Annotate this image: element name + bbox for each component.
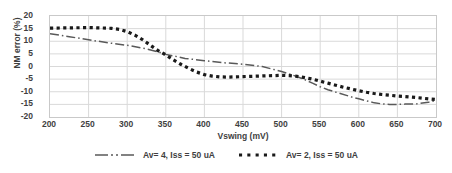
y-tick-label: 10: [3, 36, 33, 45]
y-tick-label: 0: [3, 62, 33, 71]
legend-label-av2: Av= 2, Iss = 50 uA: [286, 150, 358, 160]
x-tick-label: 200: [29, 120, 69, 129]
y-tick-label: -5: [3, 74, 33, 83]
plot-svg: [50, 16, 436, 117]
x-tick-label: 600: [338, 120, 378, 129]
y-tick-label: 20: [3, 11, 33, 20]
legend-swatch-dash-dot-icon: [94, 150, 138, 160]
x-tick-label: 350: [145, 120, 185, 129]
x-tick-label: 450: [222, 120, 262, 129]
x-tick-label: 650: [376, 120, 416, 129]
x-tick-label: 700: [415, 120, 452, 129]
x-tick-label: 300: [106, 120, 146, 129]
x-axis-title: Vswing (mV): [49, 131, 437, 141]
legend-swatch-dotted-icon: [237, 150, 281, 160]
chart-figure: NM error (%) 20151050-5-10-15-20 2002503…: [0, 0, 452, 173]
x-tick-label: 400: [183, 120, 223, 129]
x-tick-label: 250: [68, 120, 108, 129]
y-tick-label: -10: [3, 87, 33, 96]
y-tick-label: 15: [3, 24, 33, 33]
chart-legend: Av= 4, Iss = 50 uA Av= 2, Iss = 50 uA: [0, 150, 452, 160]
legend-label-av4: Av= 4, Iss = 50 uA: [143, 150, 215, 160]
x-tick-label: 550: [299, 120, 339, 129]
y-tick-label: -15: [3, 99, 33, 108]
plot-area: [49, 15, 437, 118]
x-tick-label: 500: [261, 120, 301, 129]
legend-item-av2[interactable]: Av= 2, Iss = 50 uA: [237, 150, 358, 160]
grid-lines: [50, 16, 436, 117]
y-tick-label: 5: [3, 49, 33, 58]
legend-item-av4[interactable]: Av= 4, Iss = 50 uA: [94, 150, 215, 160]
